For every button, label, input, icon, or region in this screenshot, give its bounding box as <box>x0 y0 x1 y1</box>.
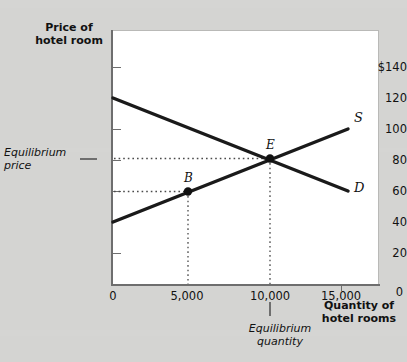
x-tick-label-10000: 10,000 <box>240 289 300 303</box>
y-tick-label-20: 20 <box>361 246 407 260</box>
equilibrium-quantity-annotation: Equilibrium quantity <box>237 322 323 348</box>
equilibrium-price-line2: price <box>4 159 78 172</box>
y-tick-mark-80 <box>113 160 121 161</box>
y-axis-title: Price of hotel room <box>30 21 108 47</box>
y-axis-title-line1: Price of <box>30 21 108 34</box>
y-tick-label-120: 120 <box>361 91 407 105</box>
texture-band <box>0 330 407 336</box>
x-tick-label-15000: 15,000 <box>311 289 371 303</box>
equilibrium-quantity-line1: Equilibrium <box>237 322 323 335</box>
equilibrium-quantity-connector-line <box>269 302 271 316</box>
x-tick-label-0: 0 <box>83 289 143 303</box>
plot-area <box>113 30 379 285</box>
point-label-B: B <box>184 171 193 185</box>
y-tick-mark-100 <box>113 129 121 130</box>
point-label-E: E <box>266 138 275 152</box>
y-tick-label-100: 100 <box>361 122 407 136</box>
x-tick-label-5000: 5,000 <box>157 289 217 303</box>
y-tick-label-80: 80 <box>361 153 407 167</box>
x-tick-mark-15000 <box>341 284 342 291</box>
demand-curve-label: D <box>354 180 364 195</box>
y-tick-mark-140 <box>113 67 121 68</box>
y-axis-line <box>111 30 113 286</box>
y-axis-title-line2: hotel room <box>30 34 108 47</box>
y-tick-label-60: 60 <box>361 184 407 198</box>
x-axis-title-line2: hotel rooms <box>311 312 407 325</box>
y-tick-mark-20 <box>113 253 121 254</box>
y-tick-label-40: 40 <box>361 215 407 229</box>
equilibrium-price-connector-line <box>80 158 97 160</box>
supply-curve-label: S <box>354 110 363 125</box>
x-axis-line <box>111 284 380 286</box>
equilibrium-price-line1: Equilibrium <box>4 146 78 159</box>
y-tick-mark-60 <box>113 191 121 192</box>
texture-band <box>0 0 407 8</box>
equilibrium-quantity-line2: quantity <box>237 335 323 348</box>
equilibrium-price-annotation: Equilibrium price <box>4 146 78 172</box>
supply-demand-chart-figure: Price of hotel room Quantity of hotel ro… <box>0 0 407 362</box>
y-tick-label-140: $140 <box>361 60 407 74</box>
